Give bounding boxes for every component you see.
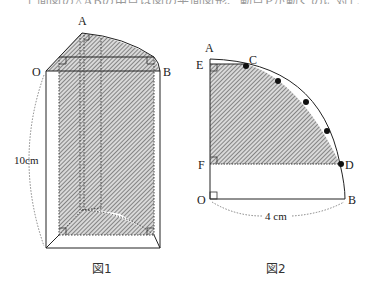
label-A-fig2: A bbox=[205, 41, 214, 55]
arc-dot bbox=[324, 128, 330, 134]
dimension-label-fig1: 10cm bbox=[14, 154, 39, 166]
label-C-fig2: C bbox=[249, 53, 257, 67]
label-O-fig1: O bbox=[32, 65, 41, 79]
point-D bbox=[338, 161, 344, 167]
figure-1: A O B 10cm 図1 bbox=[14, 14, 171, 276]
label-E-fig2: E bbox=[196, 58, 203, 72]
arc-dot bbox=[275, 78, 281, 84]
label-B-fig1: B bbox=[163, 65, 171, 79]
dimension-label-fig2: 4 cm bbox=[265, 210, 287, 222]
figure-2: A E C F D O B 4 cm 図2 bbox=[196, 41, 356, 276]
label-A-fig1: A bbox=[78, 14, 87, 28]
label-D-fig2: D bbox=[345, 158, 354, 172]
label-O-fig2: O bbox=[197, 193, 206, 207]
caption-fig1: 図1 bbox=[92, 262, 112, 276]
arc-dot bbox=[303, 99, 309, 105]
caption-fig2: 図2 bbox=[266, 262, 286, 276]
label-F-fig2: F bbox=[198, 158, 205, 172]
hatched-region-fig2 bbox=[210, 64, 340, 164]
label-B-fig2: B bbox=[348, 193, 356, 207]
diagram-canvas: A O B 10cm 図1 bbox=[0, 0, 367, 289]
